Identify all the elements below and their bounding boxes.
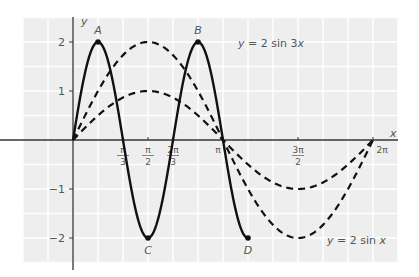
x-axis-label: x [389, 127, 397, 140]
point-d [245, 235, 251, 241]
point-label-c: C [144, 244, 152, 257]
curve-label: y = 2 sin x [326, 234, 386, 247]
x-tick-numerator: 3π [292, 145, 304, 155]
x-tick-label: 2π [376, 145, 388, 155]
y-tick-label: −2 [49, 232, 65, 245]
x-tick-denominator: 2 [295, 157, 301, 167]
x-tick-denominator: 2 [145, 157, 151, 167]
x-tick-label: π [215, 145, 221, 155]
y-tick-label: 1 [58, 85, 65, 98]
chart: yx 21−1−2π3π22π3π3π22π ABCD y = 2 sin 3x… [0, 0, 419, 277]
curve-label: y = 2 sin 3x [237, 37, 304, 50]
point-a [95, 39, 101, 45]
point-b [195, 39, 201, 45]
x-tick-numerator: 2π [167, 145, 179, 155]
y-tick-label: 2 [58, 36, 65, 49]
point-c [145, 235, 151, 241]
y-tick-label: −1 [49, 183, 65, 196]
x-tick-numerator: π [145, 145, 151, 155]
point-label-d: D [244, 244, 252, 257]
y-axis-label: y [80, 15, 88, 28]
point-label-b: B [194, 24, 202, 37]
point-label-a: A [93, 24, 102, 37]
